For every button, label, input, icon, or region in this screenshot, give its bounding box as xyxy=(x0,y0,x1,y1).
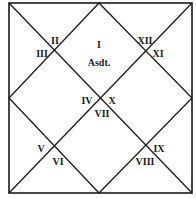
house-label: IX xyxy=(153,143,165,154)
house-label: X xyxy=(108,95,116,106)
house-label: V xyxy=(37,143,45,154)
house-label: XI xyxy=(152,48,163,59)
house-label: VI xyxy=(52,156,63,167)
house-label: VII xyxy=(94,108,109,119)
horoscope-chart: IIIIIIIVVVIVIIVIIIIXXXIXIIAsdt. xyxy=(0,0,196,198)
house-label: VIII xyxy=(136,156,155,167)
ascendant-label: Asdt. xyxy=(88,57,111,68)
house-label: I xyxy=(97,39,101,50)
house-label: XII xyxy=(137,35,152,46)
house-label: III xyxy=(36,48,48,59)
house-label: IV xyxy=(81,95,93,106)
house-label: II xyxy=(51,35,59,46)
